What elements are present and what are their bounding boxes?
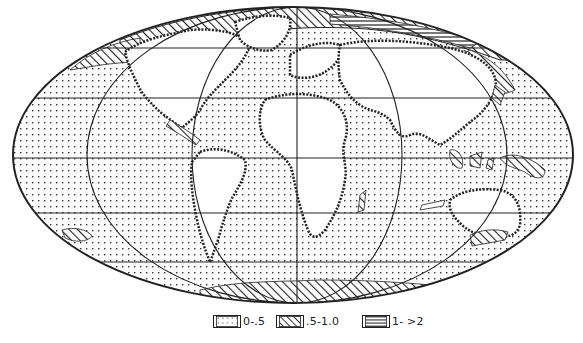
world-map bbox=[0, 0, 583, 310]
horizontal-hatch-swatch-icon bbox=[362, 315, 390, 328]
legend: 0-.5 .5-1.0 1- >2 bbox=[0, 315, 583, 333]
dots-swatch-icon bbox=[213, 315, 241, 328]
legend-item-diagonal: .5-1.0 bbox=[276, 315, 339, 328]
legend-label: 1- >2 bbox=[392, 315, 424, 328]
legend-label: 0-.5 bbox=[243, 315, 265, 328]
diagonal-hatch-swatch-icon bbox=[276, 315, 304, 328]
legend-label: .5-1.0 bbox=[306, 315, 339, 328]
legend-item-horizontal: 1- >2 bbox=[362, 315, 424, 328]
legend-item-dots: 0-.5 bbox=[213, 315, 265, 328]
